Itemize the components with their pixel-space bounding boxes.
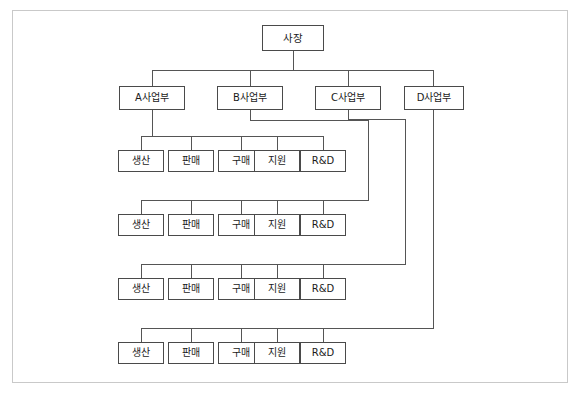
node-department-row2-col2[interactable]: 판매	[168, 214, 214, 236]
diagram-canvas: 사장 A사업부 B사업부 C사업부 D사업부 생산판매구매지원R&D생산판매구매…	[0, 0, 583, 399]
node-department-label: 생산	[132, 156, 150, 166]
node-department-label: 생산	[132, 348, 150, 358]
node-department-row3-col2[interactable]: 판매	[168, 278, 214, 300]
node-division-c-label: C사업부	[331, 93, 365, 103]
node-department-label: 생산	[132, 284, 150, 294]
node-department-row1-col5[interactable]: R&D	[300, 150, 346, 172]
node-department-row2-col4[interactable]: 지원	[254, 214, 300, 236]
node-department-label: 판매	[182, 220, 200, 230]
node-department-row3-col5[interactable]: R&D	[300, 278, 346, 300]
node-department-label: 구매	[232, 156, 250, 166]
node-division-d[interactable]: D사업부	[404, 86, 464, 110]
node-department-label: 지원	[268, 220, 286, 230]
node-department-row2-col1[interactable]: 생산	[118, 214, 164, 236]
node-department-row2-col5[interactable]: R&D	[300, 214, 346, 236]
node-division-c[interactable]: C사업부	[315, 86, 381, 110]
node-department-label: 구매	[232, 348, 250, 358]
node-department-label: R&D	[312, 220, 334, 230]
node-ceo-label: 사장	[283, 33, 303, 44]
node-division-d-label: D사업부	[417, 93, 452, 103]
node-department-row4-col4[interactable]: 지원	[254, 342, 300, 364]
node-department-row1-col2[interactable]: 판매	[168, 150, 214, 172]
node-department-row1-col4[interactable]: 지원	[254, 150, 300, 172]
node-department-label: 지원	[268, 156, 286, 166]
node-division-a-label: A사업부	[135, 93, 169, 103]
node-ceo[interactable]: 사장	[262, 25, 324, 51]
node-department-label: 구매	[232, 220, 250, 230]
node-department-label: R&D	[312, 156, 334, 166]
node-department-label: 판매	[182, 284, 200, 294]
connector-div-c-route	[241, 110, 405, 264]
node-department-label: 지원	[268, 348, 286, 358]
node-division-a[interactable]: A사업부	[119, 86, 185, 110]
node-department-row4-col2[interactable]: 판매	[168, 342, 214, 364]
node-department-row3-col4[interactable]: 지원	[254, 278, 300, 300]
node-department-row3-col1[interactable]: 생산	[118, 278, 164, 300]
node-department-label: 생산	[132, 220, 150, 230]
node-division-b-label: B사업부	[233, 93, 267, 103]
node-department-label: 판매	[182, 348, 200, 358]
node-department-label: R&D	[312, 284, 334, 294]
node-department-label: 구매	[232, 284, 250, 294]
node-division-b[interactable]: B사업부	[217, 86, 283, 110]
org-chart-connectors	[0, 0, 583, 399]
node-department-row4-col1[interactable]: 생산	[118, 342, 164, 364]
node-department-row4-col5[interactable]: R&D	[300, 342, 346, 364]
node-department-row1-col1[interactable]: 생산	[118, 150, 164, 172]
node-department-label: 지원	[268, 284, 286, 294]
node-department-label: 판매	[182, 156, 200, 166]
node-department-label: R&D	[312, 348, 334, 358]
